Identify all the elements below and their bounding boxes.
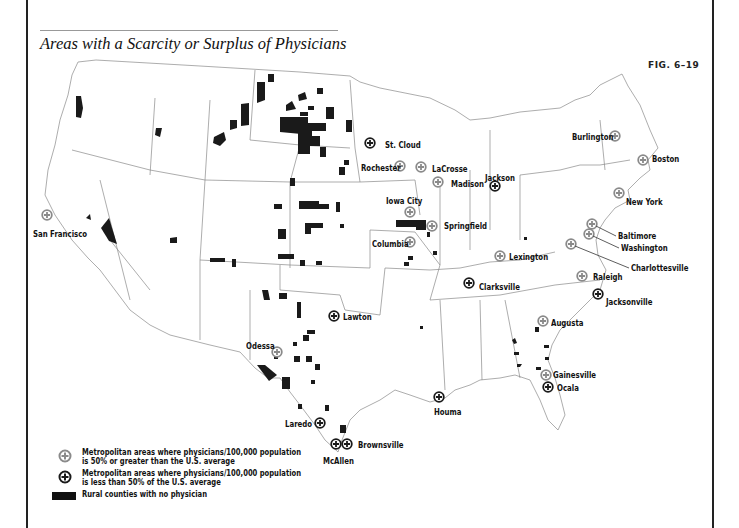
legend-item-rural: Rural counties with no physician — [58, 490, 342, 500]
rural-county-shape — [298, 130, 320, 154]
gray-cross-circle-icon — [587, 219, 597, 229]
gray-cross-circle-icon — [427, 221, 437, 231]
rural-county-shape — [232, 259, 236, 267]
city-label: New York — [626, 197, 663, 207]
legend-item-surplus: Metropolitan areas where physicians/100,… — [58, 448, 342, 466]
rural-county-shape — [303, 335, 309, 341]
city-label: Boston — [652, 154, 679, 164]
city-markers-layer — [42, 131, 648, 449]
legend-text-surplus: Metropolitan areas where physicians/100,… — [82, 448, 303, 466]
gray-cross-circle-icon — [495, 251, 505, 261]
rural-county-shape — [293, 342, 297, 346]
rural-county-shape — [241, 103, 249, 126]
rural-county-shape — [325, 405, 329, 411]
rural-county-shape — [344, 160, 349, 165]
legend-text-rural: Rural counties with no physician — [82, 490, 303, 499]
rural-county-shape — [315, 364, 320, 370]
rural-county-shape — [230, 120, 237, 130]
rural-county-shape — [268, 74, 274, 82]
rural-county-shape — [308, 106, 314, 110]
city-label: San Francisco — [33, 229, 87, 239]
rural-county-shape — [257, 82, 265, 103]
city-label: Houma — [434, 407, 462, 417]
black-cross-circle-icon — [58, 470, 72, 484]
rural-county-shape — [320, 147, 326, 157]
city-label: Charlottesville — [631, 263, 688, 273]
city-label: Ocala — [557, 383, 579, 393]
rural-county-shape — [262, 290, 270, 300]
rural-county-shape — [210, 258, 225, 262]
map-legend: Metropolitan areas where physicians/100,… — [58, 448, 342, 503]
city-label: Gainesville — [553, 370, 596, 380]
gray-cross-circle-icon — [58, 449, 72, 463]
rural-county-shape — [514, 352, 519, 355]
rural-county-shape — [170, 237, 177, 243]
gray-cross-circle-icon — [577, 271, 587, 281]
rural-county-shape — [340, 224, 344, 228]
rural-county-shape — [544, 345, 549, 348]
rural-county-shape — [433, 251, 437, 255]
rural-county-shape — [298, 92, 307, 101]
rural-county-shape — [311, 380, 315, 384]
rural-county-shape — [86, 214, 91, 220]
rural-county-shape — [317, 88, 323, 94]
gray-cross-circle-icon — [538, 316, 548, 326]
rural-county-shape — [408, 256, 413, 260]
city-label: Baltimore — [618, 231, 656, 241]
black-cross-circle-icon — [315, 418, 325, 428]
city-label: Odessa — [246, 341, 275, 351]
black-cross-circle-icon — [342, 439, 352, 449]
rural-county-shape — [396, 220, 426, 230]
gray-cross-circle-icon — [433, 177, 443, 187]
rural-county-shape — [336, 202, 340, 212]
rural-county-shape — [346, 120, 352, 132]
rural-county-shape — [278, 254, 294, 259]
city-label: Augusta — [551, 318, 583, 328]
rural-county-shape — [290, 178, 295, 186]
gray-cross-circle-icon — [541, 370, 551, 380]
rural-county-shape — [76, 96, 83, 118]
gray-cross-circle-icon — [416, 162, 426, 172]
legend-item-scarcity: Metropolitan areas where physicians/100,… — [58, 469, 342, 487]
rural-county-shape — [274, 204, 282, 209]
rural-county-shape — [305, 223, 323, 234]
city-label: Madison — [451, 179, 484, 189]
city-label: St. Cloud — [385, 140, 421, 150]
city-label: Jacksonville — [606, 297, 652, 307]
rural-county-shape — [339, 167, 345, 175]
rural-county-shape — [340, 425, 346, 433]
city-label: Clarksville — [479, 282, 520, 292]
rural-county-shape — [536, 367, 541, 370]
rural-county-shape — [155, 128, 162, 137]
gray-cross-circle-icon — [584, 229, 594, 239]
rural-county-shape — [404, 262, 409, 266]
city-label: LaCrosse — [432, 164, 468, 174]
black-cross-circle-icon — [543, 382, 553, 392]
rural-county-shape — [420, 326, 423, 329]
gray-cross-circle-icon — [42, 210, 52, 220]
rural-county-shape — [524, 237, 527, 240]
rural-county-shape — [535, 327, 539, 332]
rural-county-shape — [278, 229, 286, 239]
rural-county-shape — [299, 201, 329, 209]
black-cross-circle-icon — [365, 138, 375, 148]
rural-county-shape — [279, 293, 287, 299]
rural-county-shape — [257, 365, 277, 381]
black-cross-circle-icon — [329, 311, 339, 321]
black-cross-circle-icon — [464, 278, 474, 288]
gray-cross-circle-icon — [614, 188, 624, 198]
rural-county-shape — [300, 112, 308, 116]
rural-county-shape — [294, 356, 300, 362]
city-label: Lawton — [343, 312, 372, 322]
gray-cross-circle-icon — [405, 207, 415, 217]
city-label: Jackson — [485, 173, 515, 183]
rural-county-shape — [286, 101, 296, 111]
rural-county-shape — [213, 132, 226, 146]
gray-cross-circle-icon — [638, 155, 648, 165]
rural-county-shape — [101, 218, 117, 244]
rural-county-shape — [326, 107, 334, 119]
rural-county-shape — [307, 330, 315, 334]
rural-counties-layer — [76, 74, 549, 433]
rural-county-shape — [297, 302, 301, 318]
city-label: Burlington — [572, 132, 614, 142]
